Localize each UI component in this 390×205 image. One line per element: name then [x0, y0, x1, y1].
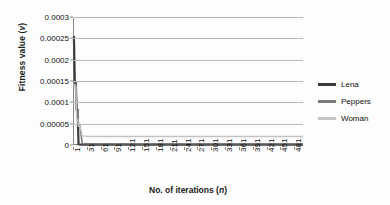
x-tick-label: 451 [280, 139, 289, 152]
gridline [73, 81, 303, 82]
y-tick-label: 0.0001 [45, 98, 69, 107]
x-tick-label: 211 [170, 139, 179, 152]
x-axis-title-text: No. of iterations [149, 185, 214, 195]
series-line-peppers [73, 82, 303, 143]
legend-item-woman[interactable]: Woman [318, 110, 388, 127]
x-tick-label: 421 [267, 139, 276, 152]
y-tick-mark [70, 38, 73, 39]
x-tick-label: 481 [294, 139, 303, 152]
y-tick-label: 0.00015 [40, 77, 69, 86]
x-tick-label: 1 [73, 148, 82, 152]
y-tick-label: 0.0003 [45, 13, 69, 22]
gridline [73, 60, 303, 61]
gridline [73, 38, 303, 39]
x-tick-label: 151 [142, 139, 151, 152]
chart-legend: LenaPeppersWoman [318, 76, 388, 127]
x-tick-label: 31 [87, 143, 96, 152]
legend-label: Peppers [341, 97, 371, 106]
x-tick-label: 271 [197, 139, 206, 152]
series-line-lena [73, 37, 303, 145]
x-tick-label: 121 [128, 139, 137, 152]
x-tick-label: 91 [114, 143, 123, 152]
y-tick-mark [70, 17, 73, 18]
legend-label: Lena [341, 80, 359, 89]
legend-swatch-icon [318, 117, 336, 120]
x-tick-label: 61 [101, 143, 110, 152]
x-tick-label: 331 [225, 139, 234, 152]
legend-label: Woman [341, 114, 368, 123]
gridline [73, 124, 303, 125]
x-tick-label: 241 [184, 139, 193, 152]
x-tick-label: 301 [211, 139, 220, 152]
y-axis-title-text: Fitness value [17, 36, 27, 91]
plot-frame: 00.000050.00010.000150.00020.000250.0003… [73, 17, 303, 145]
y-tick-mark [70, 102, 73, 103]
y-tick-mark [70, 145, 73, 146]
gridline [73, 17, 303, 18]
x-tick-label: 181 [156, 139, 165, 152]
x-tick-label: 361 [239, 139, 248, 152]
gridline [73, 102, 303, 103]
legend-swatch-icon [318, 100, 336, 103]
y-tick-mark [70, 123, 73, 124]
y-axis-title-symbol: v [17, 26, 27, 31]
y-axis-title: Fitness value (v) [17, 0, 27, 127]
legend-item-peppers[interactable]: Peppers [318, 93, 388, 110]
legend-swatch-icon [318, 83, 336, 86]
fitness-convergence-chart: Fitness value (v) 00.000050.00010.000150… [0, 0, 390, 205]
y-tick-label: 0.0002 [45, 55, 69, 64]
y-tick-mark [70, 59, 73, 60]
plot-area: 00.000050.00010.000150.00020.000250.0003… [73, 17, 303, 145]
x-axis-title: No. of iterations (n) [73, 185, 303, 195]
legend-item-lena[interactable]: Lena [318, 76, 388, 93]
x-tick-label: 391 [253, 139, 262, 152]
x-axis-title-symbol: n [219, 185, 224, 195]
y-tick-label: 0.00025 [40, 34, 69, 43]
y-tick-label: 0.00005 [40, 119, 69, 128]
y-tick-mark [70, 81, 73, 82]
series-line-woman [73, 85, 303, 137]
y-tick-label: 0 [65, 141, 69, 150]
